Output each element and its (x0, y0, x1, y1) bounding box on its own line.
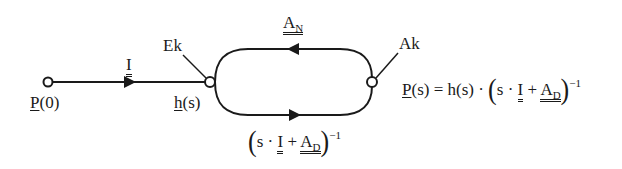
feedback-edge-label: AN (283, 14, 303, 32)
n-subscript: N (295, 22, 303, 34)
forward-edge (215, 82, 372, 115)
ek-leader (183, 55, 206, 78)
open-paren: ( (248, 127, 257, 157)
feedback-arrow-icon (287, 43, 299, 55)
node-ak (367, 77, 377, 87)
identity-matrix-symbol: I (518, 80, 524, 102)
feedback-edge (215, 49, 372, 82)
input-edge-label: I (126, 56, 132, 74)
ek-label: Ek (163, 37, 182, 54)
inverse-exponent: −1 (569, 77, 581, 89)
equation-lhs: (s) = h(s) · (411, 80, 483, 99)
node-ek (205, 77, 215, 87)
plus-sign: + (287, 132, 297, 151)
h-arg: (s) (183, 93, 201, 112)
close-paren: ) (321, 127, 330, 157)
forward-arrow-icon (289, 109, 301, 121)
d-subscript: D (313, 141, 321, 153)
input-arrow-icon (124, 76, 136, 88)
a-symbol: A (300, 132, 312, 151)
s-times: s · (497, 80, 514, 99)
d-subscript: D (553, 89, 561, 101)
p-arg: (0) (39, 93, 59, 112)
node-start (44, 78, 53, 87)
a-n-symbol: AN (283, 13, 303, 35)
transfer-equation: P(s) = h(s) · (s · I + AD)−1 (402, 74, 581, 100)
start-node-label: P(0) (30, 94, 59, 111)
open-paren: ( (488, 75, 497, 105)
identity-matrix-symbol: I (126, 55, 132, 77)
h-of-s-label: h(s) (174, 94, 200, 111)
ak-leader (376, 53, 398, 78)
plus-sign: + (527, 80, 537, 99)
close-paren: ) (561, 75, 570, 105)
inverse-exponent: −1 (329, 129, 341, 141)
ak-label: Ak (399, 35, 420, 52)
a-symbol: A (283, 13, 295, 32)
forward-edge-label: (s · I + AD)−1 (248, 126, 341, 152)
a-d-symbol: AD (540, 80, 560, 102)
identity-matrix-symbol: I (277, 132, 283, 154)
h-symbol: h (174, 93, 183, 112)
a-d-symbol: AD (300, 132, 320, 154)
a-symbol: A (540, 80, 552, 99)
s-times: s · (257, 132, 274, 151)
